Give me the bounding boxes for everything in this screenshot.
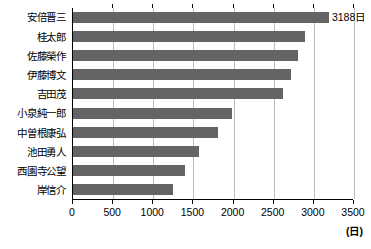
x-tick <box>353 4 354 8</box>
bar <box>73 31 305 42</box>
x-axis-ticks-top <box>72 4 353 9</box>
bar-row <box>73 123 353 142</box>
x-tick <box>273 200 274 204</box>
bar-row <box>73 180 353 199</box>
x-tick <box>112 4 113 8</box>
x-tick <box>152 4 153 8</box>
category-label: 小泉純一郎 <box>0 104 70 123</box>
x-tick <box>233 4 234 8</box>
x-axis-tick-labels: 0500100015002000250030003500 <box>0 207 371 221</box>
category-label: 佐藤榮作 <box>0 46 70 65</box>
bar-row <box>73 46 353 65</box>
bar <box>73 146 199 157</box>
x-tick <box>273 4 274 8</box>
x-tick <box>72 200 73 204</box>
bar <box>73 12 329 23</box>
x-tick-label: 3500 <box>341 207 364 218</box>
x-axis-ticks-bottom <box>72 200 353 205</box>
x-tick <box>192 200 193 204</box>
bar-value-label: 3188日 <box>332 12 365 23</box>
category-label: 中曽根康弘 <box>0 123 70 142</box>
x-tick-label: 2500 <box>261 207 284 218</box>
category-label: 西園寺公望 <box>0 162 70 181</box>
x-tick-label: 2000 <box>221 207 244 218</box>
bar <box>73 108 232 119</box>
category-label: 安倍晋三 <box>0 8 70 27</box>
category-label: 伊藤博文 <box>0 66 70 85</box>
bar <box>73 127 218 138</box>
x-tick <box>233 200 234 204</box>
bar <box>73 88 283 99</box>
bar-row: 3188日 <box>73 8 353 27</box>
x-axis-unit-label: (日) <box>346 226 363 237</box>
x-tick <box>152 200 153 204</box>
category-label: 吉田茂 <box>0 85 70 104</box>
bar-chart: 安倍晋三 桂太郎 佐藤榮作 伊藤博文 吉田茂 小泉純一郎 中曽根康弘 池田勇人 … <box>0 0 371 249</box>
x-tick <box>313 4 314 8</box>
bar-row <box>73 161 353 180</box>
category-label: 池田勇人 <box>0 142 70 161</box>
bar-row <box>73 27 353 46</box>
x-tick-label: 1500 <box>181 207 204 218</box>
plot-area: 3188日 <box>72 8 353 200</box>
category-label: 桂太郎 <box>0 27 70 46</box>
bar <box>73 165 185 176</box>
bar-rows: 3188日 <box>73 8 353 199</box>
bar <box>73 184 173 195</box>
gridline <box>354 8 355 199</box>
bar-row <box>73 142 353 161</box>
bar-row <box>73 103 353 122</box>
bar-row <box>73 84 353 103</box>
x-tick-label: 1000 <box>141 207 164 218</box>
bar-row <box>73 65 353 84</box>
x-tick-label: 3000 <box>301 207 324 218</box>
x-tick-label: 0 <box>69 207 75 218</box>
bar <box>73 69 291 80</box>
x-tick-label: 500 <box>103 207 121 218</box>
x-tick <box>192 4 193 8</box>
category-label-column: 安倍晋三 桂太郎 佐藤榮作 伊藤博文 吉田茂 小泉純一郎 中曽根康弘 池田勇人 … <box>0 8 70 200</box>
x-tick <box>313 200 314 204</box>
x-tick <box>353 200 354 204</box>
x-tick <box>112 200 113 204</box>
category-label: 岸信介 <box>0 181 70 200</box>
bar <box>73 50 298 61</box>
